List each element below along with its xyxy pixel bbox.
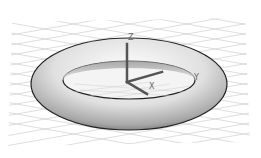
z-axis-label: Z <box>128 34 133 42</box>
x-axis-label: X <box>149 83 154 91</box>
y-axis-label: Y <box>194 74 199 82</box>
torus-render <box>0 0 261 158</box>
viewport-3d[interactable]: Z Y X <box>0 0 261 158</box>
